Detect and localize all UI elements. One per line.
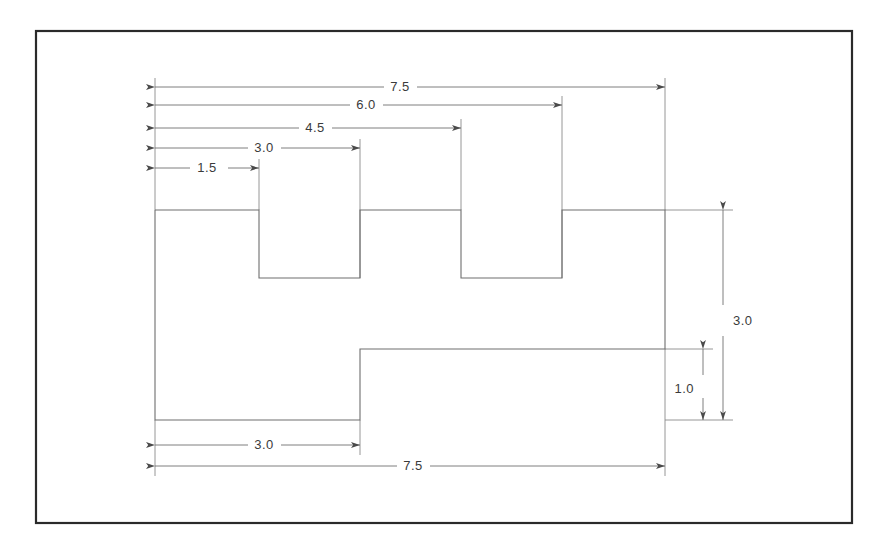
dimension-label-1-5: 1.5 (197, 160, 217, 175)
right-dimension-1-0: 1.0 (674, 349, 703, 420)
dimension-label-7-5-bottom: 7.5 (403, 458, 423, 473)
drawing-svg: 1.5 3.0 4.5 6.0 7.5 3.0 (0, 0, 875, 550)
top-dimension-7-5: 7.5 (155, 79, 665, 94)
engineering-drawing-canvas: 1.5 3.0 4.5 6.0 7.5 3.0 (0, 0, 875, 550)
dimension-label-1-0-right: 1.0 (674, 381, 694, 396)
top-dimension-6-0: 6.0 (155, 97, 562, 112)
dimension-label-4-5: 4.5 (305, 120, 325, 135)
top-dimension-3-0: 3.0 (155, 140, 360, 155)
dimension-label-7-5-top: 7.5 (390, 79, 410, 94)
right-dimension-3-0: 3.0 (723, 210, 753, 420)
dimension-label-6-0: 6.0 (356, 97, 376, 112)
extension-lines-group (155, 78, 733, 476)
bottom-dimension-7-5: 7.5 (155, 458, 665, 473)
bottom-dimension-3-0: 3.0 (155, 437, 360, 452)
dimension-label-3-0-bottom: 3.0 (254, 437, 274, 452)
top-dimension-1-5: 1.5 (155, 160, 259, 175)
dimension-label-3-0-top: 3.0 (254, 140, 274, 155)
part-outline (155, 210, 665, 420)
dimension-label-3-0-right: 3.0 (733, 313, 753, 328)
top-dimension-4-5: 4.5 (155, 120, 461, 135)
